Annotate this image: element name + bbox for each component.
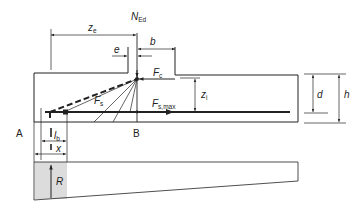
label-r: R (56, 176, 63, 187)
label-z-e: ze (87, 22, 97, 34)
label-d: d (317, 89, 323, 100)
label-h: h (344, 89, 350, 100)
label-e: e (114, 44, 120, 55)
dimension-z-i (180, 78, 200, 111)
label-f-c: Fc (153, 67, 163, 79)
label-b: b (150, 36, 156, 47)
dimension-d-h (304, 74, 346, 123)
node-top (135, 77, 139, 81)
dimension-z-e (51, 29, 136, 70)
label-a: A (16, 128, 23, 139)
label-f-s: Fs (94, 95, 104, 107)
label-n-ed: NEd (131, 11, 147, 23)
label-f-s-max: Fs,max (152, 98, 176, 110)
node-bottom-left (63, 110, 68, 115)
label-b-point: B (133, 128, 140, 139)
node-b (136, 111, 139, 114)
label-l-b: lb (54, 130, 60, 142)
label-x: x (55, 143, 62, 154)
stress-diagram (34, 162, 298, 200)
label-z-i: zi (200, 89, 207, 101)
strut-and-tie-diagram: NEd ze e b Fc Fs Fs,max zi d h A B lb x … (0, 0, 363, 205)
